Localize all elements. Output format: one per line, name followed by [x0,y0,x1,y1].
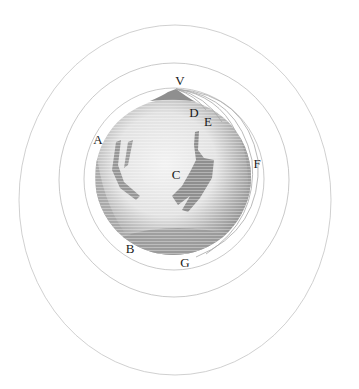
label-c: C [172,168,181,181]
earth-globe [0,0,359,389]
label-b: B [126,242,135,255]
label-f: F [253,157,260,170]
label-v: V [175,74,184,87]
label-d: D [189,106,198,119]
label-e: E [204,115,212,128]
diagram-canvas [0,0,359,389]
label-g: G [180,256,189,269]
cannonball-diagram: V D E A F C B G [0,0,359,389]
label-a: A [93,133,102,146]
